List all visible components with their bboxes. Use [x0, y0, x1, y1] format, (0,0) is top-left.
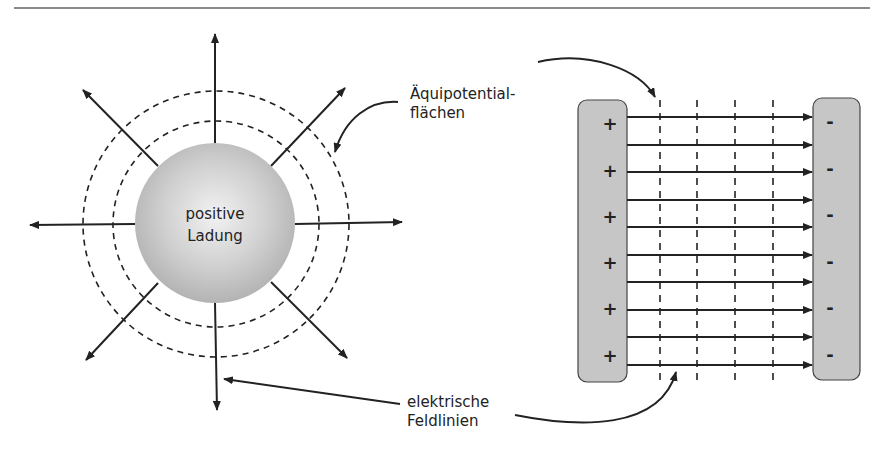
plus-sign: +	[600, 161, 620, 181]
plus-sign: +	[600, 346, 620, 366]
minus-sign: -	[820, 159, 840, 179]
fieldlines-line1: elektrische	[407, 393, 489, 412]
plus-sign: +	[600, 207, 620, 227]
equipotential-pointer-left	[335, 102, 398, 152]
fieldline-pointer-left	[224, 379, 400, 404]
field-line-right	[295, 222, 402, 224]
positive-plate	[578, 100, 627, 382]
equipotential-planes	[660, 100, 773, 382]
field-line-left	[30, 224, 135, 225]
minus-sign: -	[820, 345, 840, 365]
field-line-se	[271, 282, 347, 358]
plus-sign: +	[600, 114, 620, 134]
plus-sign: +	[600, 299, 620, 319]
minus-sign: -	[820, 252, 840, 272]
equipotential-line1: Äquipotential-	[410, 85, 515, 104]
negative-plate	[813, 98, 860, 380]
charge-label: positive Ladung	[150, 203, 280, 247]
minus-sign: -	[820, 112, 840, 132]
field-line-sw	[86, 283, 158, 360]
plus-sign: +	[600, 253, 620, 273]
equipotential-pointer-right	[538, 58, 655, 97]
fieldlines-annotation: elektrische Feldlinien	[407, 393, 489, 431]
minus-sign: -	[820, 298, 840, 318]
charge-label-line2: Ladung	[150, 225, 280, 247]
field-line-nw	[83, 90, 158, 166]
parallel-field-lines	[627, 117, 812, 365]
equipotential-line2: flächen	[410, 104, 515, 123]
fieldlines-line2: Feldlinien	[407, 412, 489, 431]
charge-label-line1: positive	[150, 203, 280, 225]
equipotential-annotation: Äquipotential- flächen	[410, 85, 515, 123]
minus-sign: -	[820, 205, 840, 225]
